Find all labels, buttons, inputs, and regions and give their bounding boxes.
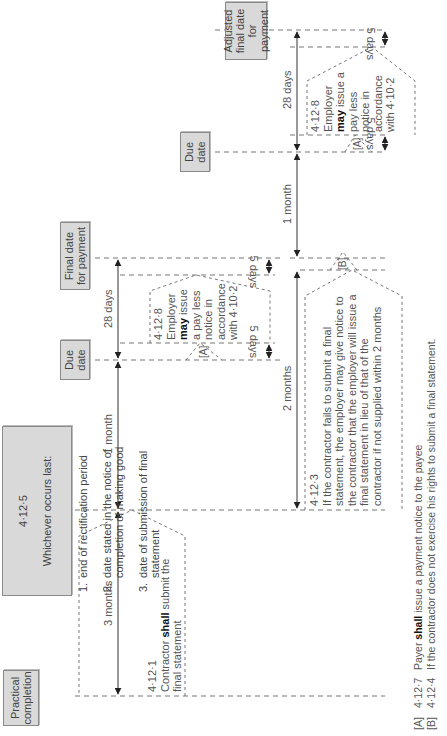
label-2-months: 2 months <box>281 366 293 411</box>
box-4-12-5: 4·12·5 Whichever occurs last: 1.end of r… <box>2 426 72 596</box>
box-final-date: Final date for payment <box>60 222 90 290</box>
note-4-12-8-a: 4·12·8 Employer may issue a pay less not… <box>152 282 240 340</box>
box-due-date-2: Due date <box>180 132 210 172</box>
label-28-days-a: 28 days <box>102 289 114 328</box>
label-1-month-a: 1 month <box>102 414 114 454</box>
legend-row-b: [B] 4·12·4 If the contractor does not ex… <box>425 339 438 731</box>
note-4-12-1: 4·12·1 Contractor shall submit the final… <box>146 542 184 692</box>
marker-a1: [A] <box>198 346 209 358</box>
note-4-12-3: 4·12·3 If the contractor fails to submit… <box>308 291 383 506</box>
label-5-days-a2: 5 days <box>248 256 260 288</box>
marker-a2: [A] <box>352 138 363 150</box>
legend: [A] 4·12·7 Payer shall issue a payment n… <box>412 339 437 731</box>
label-3-months: 3 months <box>102 581 114 626</box>
label-1-month-b: 1 month <box>281 184 293 224</box>
marker-b: [B] <box>337 258 348 270</box>
label-5-days-a1: 5 days <box>248 326 260 358</box>
box-due-date-1: Due date <box>60 340 90 380</box>
label-5-days-b2: 5 days <box>365 28 377 60</box>
box-4-12-5-heading: Whichever occurs last: <box>41 430 53 592</box>
label-28-days-b: 28 days <box>281 70 293 109</box>
box-4-12-5-item-1: 1.end of rectification period <box>77 430 89 592</box>
legend-row-a: [A] 4·12·7 Payer shall issue a payment n… <box>412 339 425 731</box>
box-4-12-5-ref: 4·12·5 <box>17 430 29 592</box>
note-4-12-8-b: 4·12·8 Employer may issue a pay less not… <box>309 70 397 132</box>
box-adjusted-final-date: Adjusted final date for payment <box>225 2 267 60</box>
box-practical-completion: Practical completion <box>3 670 39 726</box>
diagram-canvas: Practical completion 4·12·5 Whichever oc… <box>0 0 447 736</box>
box-4-12-5-item-2: 2.date stated in the notice of completio… <box>101 430 125 592</box>
